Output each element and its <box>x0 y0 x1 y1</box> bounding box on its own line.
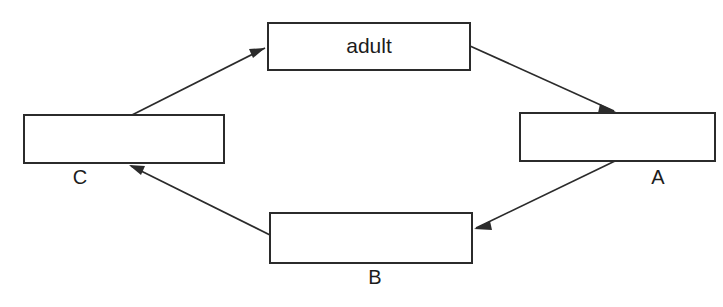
node-c-label: C <box>73 166 87 188</box>
node-group: adult A B C <box>24 23 715 288</box>
node-a-label: A <box>651 166 665 188</box>
node-a[interactable]: A <box>520 113 715 188</box>
edge-line <box>131 166 270 235</box>
node-a-box[interactable] <box>520 113 715 161</box>
node-adult[interactable]: adult <box>268 23 470 70</box>
diagram-canvas: adult A B C <box>0 0 723 307</box>
edge-c-to-adult[interactable] <box>128 48 265 117</box>
node-b-box[interactable] <box>270 213 472 263</box>
edge-b-to-c[interactable] <box>129 165 270 235</box>
node-adult-label: adult <box>346 34 392 57</box>
edge-line <box>470 46 614 111</box>
life-cycle-diagram: adult A B C <box>0 0 723 307</box>
node-b-label: B <box>368 266 381 288</box>
arrowhead-icon <box>129 165 145 175</box>
arrowhead-icon <box>598 104 616 113</box>
arrowhead-icon <box>249 48 265 58</box>
edge-a-to-b[interactable] <box>474 161 615 230</box>
edge-line <box>128 48 265 117</box>
edge-line <box>476 161 615 228</box>
arrowhead-icon <box>474 221 492 230</box>
edge-adult-to-a[interactable] <box>470 46 616 113</box>
node-b[interactable]: B <box>270 213 472 288</box>
node-c[interactable]: C <box>24 115 224 188</box>
node-c-box[interactable] <box>24 115 224 163</box>
